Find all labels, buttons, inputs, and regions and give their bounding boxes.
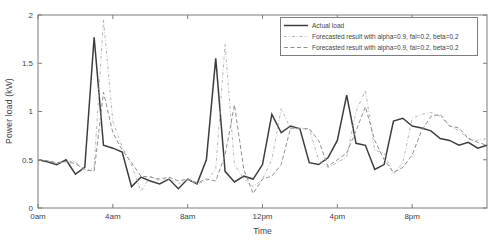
x-tick-label: 8am <box>180 212 196 221</box>
legend-line-sample-icon <box>284 44 308 51</box>
legend-label: Forecasted result with alpha=0.9, fai=0.… <box>312 44 459 51</box>
x-tick-label: 8pm <box>404 212 420 221</box>
legend-label: Actual load <box>312 22 344 29</box>
legend-line-sample-icon <box>284 22 308 29</box>
x-tick-label: 4am <box>105 212 121 221</box>
legend-item: Actual load <box>284 21 475 30</box>
legend-line-sample-icon <box>284 33 308 40</box>
x-tick-label: 0am <box>30 212 46 221</box>
x-tick-label: 12pm <box>252 212 272 221</box>
power-load-chart: 0am4am8am12pm4pm8pm00.511.52 Power load … <box>0 0 493 243</box>
x-tick-label: 4pm <box>330 212 346 221</box>
legend-item: Forecasted result with alpha=0.9, fai=0.… <box>284 43 475 52</box>
y-tick-label: 0 <box>29 204 34 213</box>
y-tick-label: 1 <box>29 107 34 116</box>
legend-item: Forecasted result with alpha=0.9, fai=0.… <box>284 32 475 41</box>
legend: Actual loadForecasted result with alpha=… <box>280 17 478 56</box>
legend-label: Forecasted result with alpha=0.9, fai=0.… <box>312 33 459 40</box>
series-line-2-dashed <box>38 92 487 193</box>
y-tick-label: 1.5 <box>22 59 34 68</box>
y-tick-label: 0.5 <box>22 156 34 165</box>
y-axis-label: Power load (kW) <box>4 56 14 166</box>
x-axis-label: Time <box>38 226 487 236</box>
y-tick-label: 2 <box>29 11 34 20</box>
series-line-0-solid <box>38 37 487 189</box>
